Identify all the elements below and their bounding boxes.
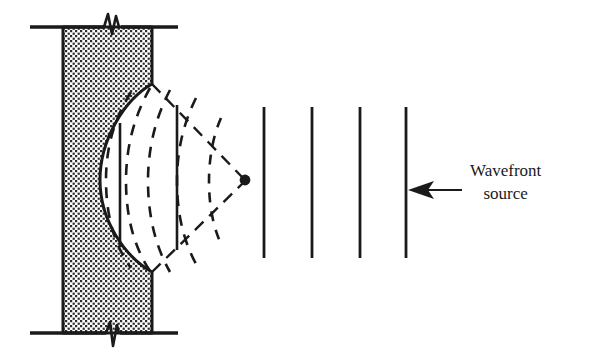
plane-wavefronts	[264, 107, 406, 258]
wavefront-source-label-line1: Wavefront	[470, 161, 541, 180]
stippled-medium-block	[60, 24, 156, 336]
focal-point	[240, 175, 251, 186]
wavefront-lens-diagram: Wavefront source	[0, 0, 589, 363]
converging-ray-envelope	[152, 84, 243, 272]
wavefront-source-label: Wavefront source	[470, 160, 541, 206]
wavefront-source-arrow	[408, 181, 462, 199]
wavefront-source-label-line2: source	[470, 183, 541, 206]
